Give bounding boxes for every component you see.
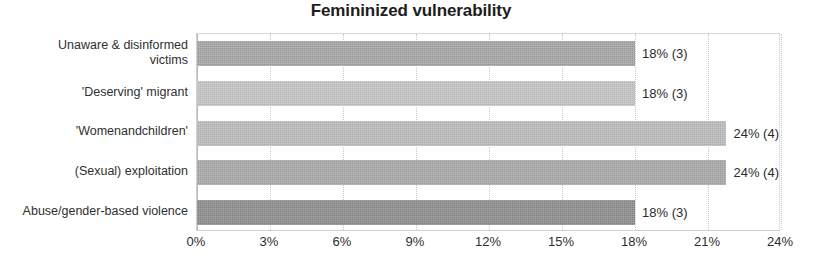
x-tick-label: 9% (406, 234, 425, 249)
x-tick-label: 6% (333, 234, 352, 249)
x-tick-label: 3% (260, 234, 279, 249)
bar-value-label: 24% (4) (733, 127, 779, 140)
bar[interactable] (197, 41, 635, 66)
x-axis-tick-labels: 0%3%6%9%12%15%18%21%24% (196, 234, 780, 256)
x-tick-label: 12% (475, 234, 501, 249)
bar-value-label: 24% (4) (733, 166, 779, 179)
bar[interactable] (197, 81, 635, 106)
x-tick-label: 18% (621, 234, 647, 249)
category-label: 'Deserving' migrant (0, 73, 188, 113)
x-tick-label: 15% (548, 234, 574, 249)
bar-chart: Femininized vulnerability Unaware & disi… (0, 0, 822, 259)
bar-row[interactable]: 24% (4) (197, 121, 779, 146)
category-label: 'Womenandchildren' (0, 112, 188, 152)
category-label: (Sexual) exploitation (0, 152, 188, 192)
category-label: Unaware & disinformedvictims (0, 33, 188, 73)
category-label: Abuse/gender-based violence (0, 191, 188, 231)
bar-row[interactable]: 18% (3) (197, 81, 779, 106)
x-tick-label: 24% (767, 234, 793, 249)
bar-row[interactable]: 18% (3) (197, 200, 779, 225)
bar[interactable] (197, 160, 726, 185)
bar-row[interactable]: 18% (3) (197, 41, 779, 66)
plot-area: 18% (3)18% (3)24% (4)24% (4)18% (3) (196, 33, 780, 231)
bar[interactable] (197, 200, 635, 225)
category-axis-labels: Unaware & disinformedvictims'Deserving' … (0, 33, 188, 231)
bar-row[interactable]: 24% (4) (197, 160, 779, 185)
bar[interactable] (197, 121, 726, 146)
gridline-24% (781, 34, 782, 230)
bar-value-label: 18% (3) (642, 87, 688, 100)
bar-rows: 18% (3)18% (3)24% (4)24% (4)18% (3) (197, 34, 779, 230)
bar-value-label: 18% (3) (642, 47, 688, 60)
x-tick-label: 0% (187, 234, 206, 249)
chart-title: Femininized vulnerability (0, 1, 822, 21)
x-tick-label: 21% (694, 234, 720, 249)
bar-value-label: 18% (3) (642, 206, 688, 219)
